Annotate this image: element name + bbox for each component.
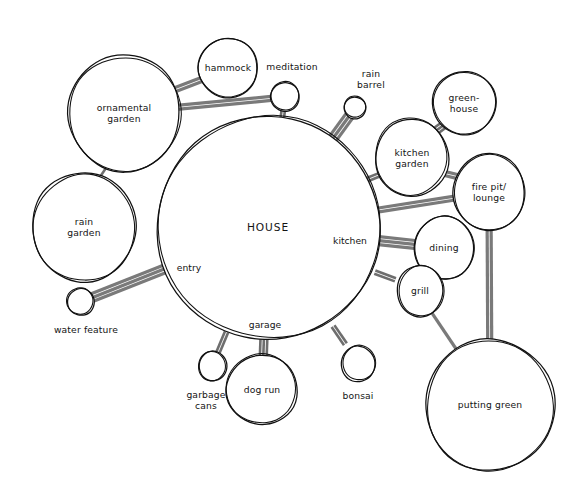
diagram-canvas: HOUSEentrygaragekitchenornamentalgardenh… xyxy=(0,0,581,497)
label-fire-pit-lounge: fire pit/lounge xyxy=(472,180,507,202)
label-dining: dining xyxy=(429,242,458,253)
label-grill: grill xyxy=(411,285,429,296)
bubble-rain-barrel[interactable] xyxy=(344,96,366,119)
label-bonsai: bonsai xyxy=(342,390,373,401)
label-meditation: meditation xyxy=(266,61,317,72)
connector-house-to-bonsai xyxy=(332,325,347,345)
connector-fire-pit-lounge-to-putting-green xyxy=(487,228,492,342)
connector-house-to-dining xyxy=(376,236,418,248)
label-house: HOUSE xyxy=(247,221,289,233)
label-dog-run: dog run xyxy=(244,384,281,395)
connector-house-to-garbage-cans xyxy=(217,331,229,353)
bubble-water-feature[interactable] xyxy=(67,288,95,315)
label-water-feature: water feature xyxy=(54,324,118,335)
bubble-diagram-svg: HOUSEentrygaragekitchenornamentalgardenh… xyxy=(0,0,581,497)
bubble-bonsai[interactable] xyxy=(341,345,375,382)
label-hammock: hammock xyxy=(205,62,252,73)
label-greenhouse: green-house xyxy=(449,91,480,113)
label-putting-green: putting green xyxy=(458,399,522,410)
label-kitchen-garden: kitchengarden xyxy=(395,146,430,168)
zone-label-garage: garage xyxy=(249,319,282,330)
bubble-garbage-cans[interactable] xyxy=(199,351,227,381)
connector-ornamental-garden-to-hammock xyxy=(172,77,204,93)
connector-grill-to-putting-green xyxy=(430,311,457,352)
label-rain-barrel: rainbarrel xyxy=(357,67,385,89)
label-garbage-cans: garbagecans xyxy=(186,388,225,410)
connector-house-to-grill xyxy=(374,271,396,282)
zone-label-entry: entry xyxy=(177,262,202,273)
zone-label-kitchen: kitchen xyxy=(333,235,367,246)
connector-house-to-fire-pit-lounge xyxy=(375,196,456,213)
bubble-meditation[interactable] xyxy=(270,81,299,111)
